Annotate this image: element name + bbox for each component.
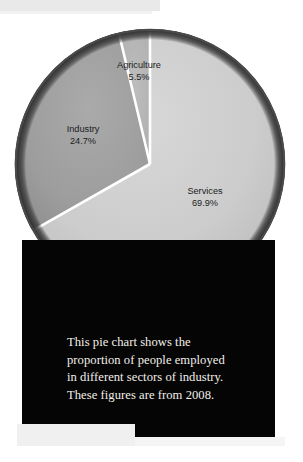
top-decorative-strip-fade [0,11,152,14]
caption-line-2: proportion of people employed [67,352,267,370]
chart-figure: This pie chart shows the proportion of p… [0,0,303,462]
slice-label-services-value: 69.9% [170,198,240,210]
caption-line-3: in different sectors of industry. [67,369,267,387]
slice-label-industry: Industry 24.7% [48,124,118,147]
top-decorative-strip [0,0,160,11]
slice-label-industry-name: Industry [48,124,118,136]
caption-line-4: These figures are from 2008. [67,387,267,405]
slice-label-agriculture-value: 5.5% [103,72,175,84]
caption-line-1: This pie chart shows the [67,334,267,352]
slice-label-services: Services 69.9% [170,186,240,209]
slice-label-industry-value: 24.7% [48,136,118,148]
caption-text: This pie chart shows the proportion of p… [67,334,267,404]
bottom-decorative-strip-fade [135,437,285,446]
caption-panel: This pie chart shows the proportion of p… [22,240,275,437]
slice-label-agriculture: Agriculture 5.5% [103,60,175,83]
bottom-decorative-strip [17,424,135,446]
slice-label-agriculture-name: Agriculture [103,60,175,72]
slice-label-services-name: Services [170,186,240,198]
